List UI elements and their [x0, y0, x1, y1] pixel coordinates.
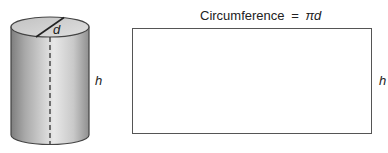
cylinder-net-diagram: d h Circumference = πd h — [0, 0, 388, 153]
unrolled-rectangle — [132, 28, 372, 134]
rectangle-height-label: h — [379, 74, 386, 87]
equals-sign: = — [291, 8, 299, 23]
circumference-label: Circumference = πd — [200, 9, 321, 22]
diameter-label: d — [53, 23, 60, 36]
cylinder-height-label: h — [95, 74, 102, 87]
pi-symbol: π — [305, 8, 314, 23]
circumference-text: Circumference — [200, 8, 285, 23]
diameter-variable: d — [314, 8, 321, 23]
